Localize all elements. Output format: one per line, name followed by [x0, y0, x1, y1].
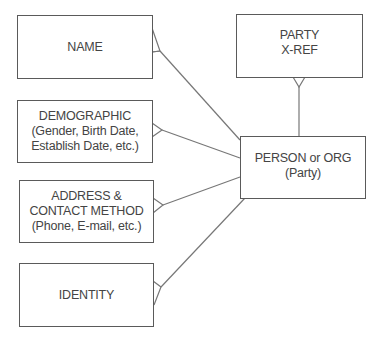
entity-label: PERSON or ORG: [255, 151, 352, 166]
entity-label: CONTACT METHOD: [29, 204, 143, 219]
entity-label: IDENTITY: [59, 288, 114, 303]
entity-person-or-org[interactable]: PERSON or ORG (Party): [240, 136, 366, 199]
entity-label: (Gender, Birth Date,: [31, 124, 138, 139]
entity-identity[interactable]: IDENTITY: [19, 263, 154, 327]
relationship-demographic-person: [152, 123, 240, 158]
er-diagram: NAME PARTY X-REF DEMOGRAPHIC (Gender, Bi…: [0, 0, 379, 343]
entity-address-contact[interactable]: ADDRESS & CONTACT METHOD (Phone, E-mail,…: [19, 180, 154, 243]
entity-label: Establish Date, etc.): [31, 139, 139, 154]
entity-label: DEMOGRAPHIC: [39, 109, 131, 124]
relationship-xref-person: [293, 77, 305, 136]
crows-foot-icon: [293, 77, 305, 87]
relationship-name-person: [152, 28, 240, 140]
entity-label: PARTY: [280, 28, 320, 43]
entity-label: NAME: [67, 40, 102, 55]
crows-foot-icon: [152, 123, 162, 137]
crows-foot-icon: [152, 28, 160, 52]
entity-name[interactable]: NAME: [17, 15, 153, 79]
entity-party-xref[interactable]: PARTY X-REF: [236, 14, 363, 78]
crows-foot-icon: [153, 198, 163, 213]
relationship-identity-person: [153, 198, 245, 305]
entity-demographic[interactable]: DEMOGRAPHIC (Gender, Birth Date, Establi…: [17, 100, 153, 163]
crows-foot-icon: [153, 281, 161, 305]
relationship-address-person: [153, 177, 240, 213]
entity-label: ADDRESS &: [51, 189, 121, 204]
entity-label: (Phone, E-mail, etc.): [32, 219, 142, 234]
entity-label: (Party): [285, 166, 321, 181]
entity-label: X-REF: [281, 43, 318, 58]
